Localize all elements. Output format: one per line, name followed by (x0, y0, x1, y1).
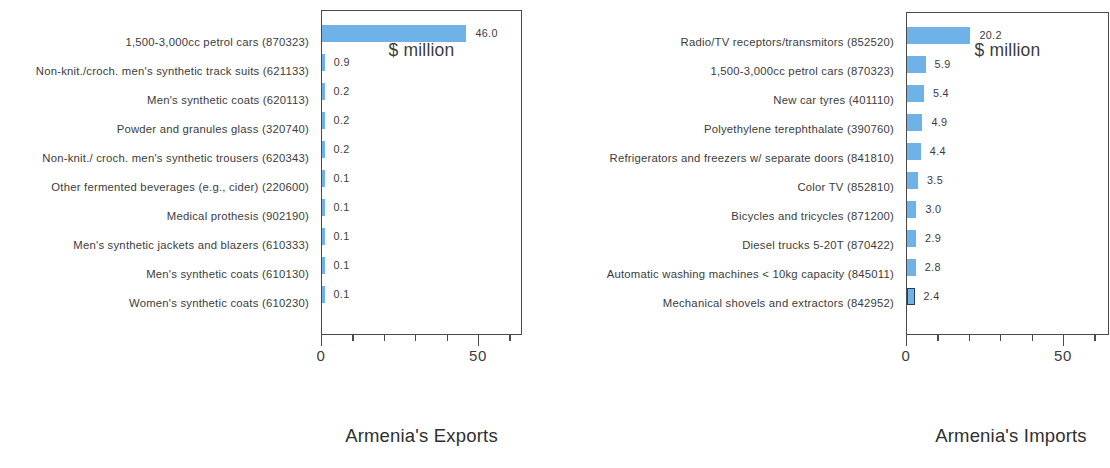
bar-value-label: 5.4 (933, 85, 949, 102)
axis-tick (969, 335, 970, 341)
category-label: Bicycles and tricycles (871200) (731, 202, 894, 231)
axis-tick (509, 335, 510, 341)
category-label: Non-knit./ croch. men's synthetic trouse… (42, 144, 309, 173)
axis-tick (321, 335, 322, 346)
axis-tick (352, 335, 353, 341)
category-label: Men's synthetic coats (610130) (146, 260, 309, 289)
axis-tick (1000, 335, 1001, 341)
category-label: Refrigerators and freezers w/ separate d… (610, 144, 895, 173)
bar-value-label: 4.9 (931, 114, 947, 131)
bar-row: 2.8 (907, 253, 1108, 282)
category-label: Diesel trucks 5-20T (870422) (742, 231, 894, 260)
bar-row: 3.0 (907, 195, 1108, 224)
bar-row: 4.9 (907, 108, 1108, 137)
axis-tick (906, 335, 907, 346)
category-label: Powder and granules glass (320740) (117, 115, 309, 144)
category-label: Mechanical shovels and extractors (84295… (663, 289, 894, 318)
bar-value-label: 0.2 (334, 112, 350, 129)
exports-axis-title: $ million (321, 40, 522, 61)
bar-row: 0.1 (322, 251, 521, 280)
bar-row: 0.1 (322, 222, 521, 251)
bar-row: 0.2 (322, 77, 521, 106)
axis-tick (1063, 335, 1064, 346)
bar (907, 143, 921, 160)
category-label: Color TV (852810) (797, 173, 894, 202)
bar-value-label: 2.9 (925, 230, 941, 247)
category-label: Medical prothesis (902190) (167, 202, 309, 231)
bar-row: 0.2 (322, 135, 521, 164)
bar-value-label: 0.1 (334, 257, 350, 274)
category-label: New car tyres (401110) (773, 86, 894, 115)
axis-tick-label: 0 (317, 347, 326, 364)
category-label: Men's synthetic coats (620113) (147, 86, 309, 115)
axis-tick (1094, 335, 1095, 341)
bar-value-label: 3.5 (927, 172, 943, 189)
axis-tick (937, 335, 938, 341)
exports-category-labels: 1,500-3,000cc petrol cars (870323)Non-kn… (0, 10, 315, 335)
bar-value-label: 0.1 (334, 228, 350, 245)
bar-row: 0.1 (322, 193, 521, 222)
imports-x-axis: 050 (906, 335, 1109, 381)
imports-category-labels: Radio/TV receptors/transmitors (852520)1… (555, 10, 900, 335)
bar (907, 172, 918, 189)
exports-chart-title: Armenia's Exports (321, 425, 522, 447)
category-label: Women's synthetic coats (610230) (129, 289, 309, 318)
category-label: Non-knit./croch. men's synthetic track s… (36, 57, 309, 86)
bar (907, 259, 916, 276)
bar (322, 286, 325, 303)
bar (907, 114, 922, 131)
axis-tick (415, 335, 416, 341)
category-label: 1,500-3,000cc petrol cars (870323) (125, 28, 309, 57)
bar (322, 257, 325, 274)
bar-row: 0.2 (322, 106, 521, 135)
axis-tick (478, 335, 479, 346)
bar-row: 0.1 (322, 164, 521, 193)
bar (907, 85, 924, 102)
imports-chart-title: Armenia's Imports (906, 425, 1110, 447)
bar-row: 0.1 (322, 280, 521, 309)
bar-value-label: 0.1 (334, 286, 350, 303)
axis-tick (1032, 335, 1033, 341)
imports-chart-panel: Radio/TV receptors/transmitors (852520)1… (555, 0, 1110, 468)
category-label: Polyethylene terephthalate (390760) (704, 115, 894, 144)
bar-value-label: 0.2 (334, 83, 350, 100)
axis-tick (447, 335, 448, 341)
bar (322, 112, 325, 129)
category-label: Other fermented beverages (e.g., cider) … (51, 173, 309, 202)
bar-row: 2.9 (907, 224, 1108, 253)
axis-tick-label: 50 (469, 347, 487, 364)
bar-value-label: 4.4 (930, 143, 946, 160)
axis-tick-label: 0 (902, 347, 911, 364)
bar (322, 199, 325, 216)
axis-tick (384, 335, 385, 341)
bar (907, 230, 916, 247)
bar (322, 228, 325, 245)
bar (322, 141, 325, 158)
bar-value-label: 0.1 (334, 199, 350, 216)
category-label: Men's synthetic jackets and blazers (610… (73, 231, 309, 260)
bar (907, 288, 915, 305)
bar-value-label: 2.4 (924, 288, 940, 305)
axis-tick-label: 50 (1054, 347, 1072, 364)
bar-value-label: 3.0 (925, 201, 941, 218)
bar (907, 201, 916, 218)
bar-value-label: 2.8 (925, 259, 941, 276)
category-label: 1,500-3,000cc petrol cars (870323) (710, 57, 894, 86)
exports-x-axis: 050 (321, 335, 522, 381)
bar (322, 83, 325, 100)
category-label: Radio/TV receptors/transmitors (852520) (681, 28, 895, 57)
category-label: Automatic washing machines < 10kg capaci… (607, 260, 894, 289)
bar-value-label: 0.2 (334, 141, 350, 158)
bar-value-label: 0.1 (334, 170, 350, 187)
bar (322, 170, 325, 187)
imports-axis-title: $ million (906, 40, 1109, 61)
bar-row: 4.4 (907, 137, 1108, 166)
bar-row: 2.4 (907, 282, 1108, 311)
exports-chart-panel: 1,500-3,000cc petrol cars (870323)Non-kn… (0, 0, 555, 468)
bar-row: 3.5 (907, 166, 1108, 195)
bar-row: 5.4 (907, 79, 1108, 108)
